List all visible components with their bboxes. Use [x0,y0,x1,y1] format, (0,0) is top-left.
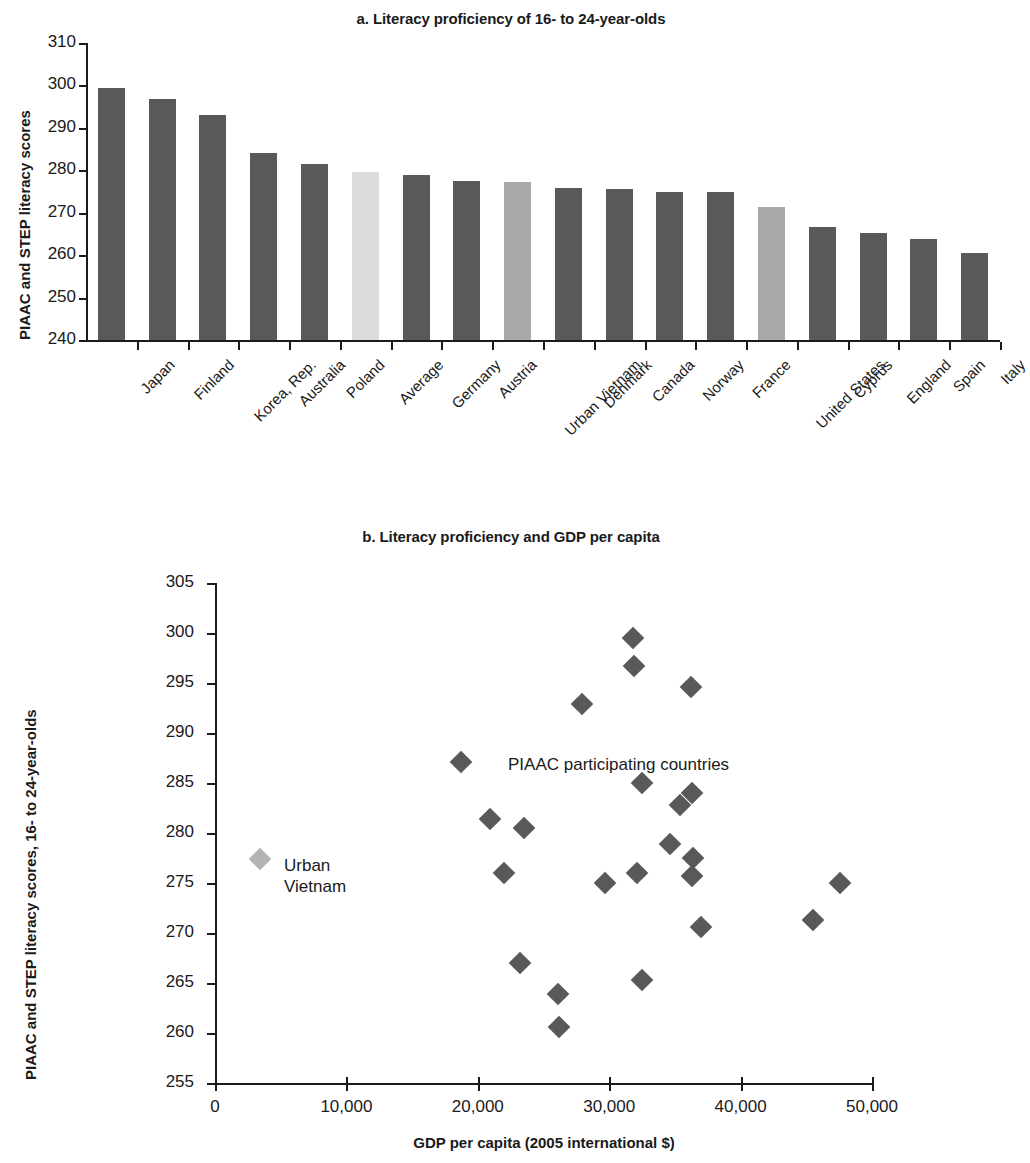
panel-b-x-tick-label: 30,000 [549,1097,669,1117]
panel-a-y-tick-mark [79,298,86,300]
panel-b-x-tick-mark [741,1077,743,1091]
panel-b-x-tick-mark [609,1077,611,1091]
bar-italy[interactable] [961,253,988,340]
data-point-piaac-country[interactable] [829,872,852,895]
bar-finland[interactable] [149,99,176,340]
data-point-piaac-country[interactable] [623,655,646,678]
data-point-piaac-country[interactable] [658,833,681,856]
panel-a-x-tick-mark [188,342,190,350]
panel-a-y-tick-label: 240 [30,329,76,349]
bar-korea-rep-[interactable] [199,115,226,340]
panel-b-x-tick-mark [215,1077,217,1091]
data-point-piaac-country[interactable] [690,916,713,939]
panel-b-x-tick-mark [872,1077,874,1091]
panel-b-y-tick-label: 255 [132,1072,194,1092]
panel-a-y-tick-label: 280 [30,159,76,179]
data-point-piaac-country[interactable] [478,808,501,831]
panel-b-y-tick-label: 285 [132,772,194,792]
bar-france[interactable] [707,192,734,340]
data-point-piaac-country[interactable] [802,909,825,932]
data-point-piaac-country[interactable] [570,693,593,716]
bar-japan[interactable] [98,88,125,340]
bar-spain[interactable] [910,239,937,340]
panel-a-x-tick-mark [238,342,240,350]
panel-a-category-label: Spain [949,356,988,395]
panel-a-x-tick-mark [340,342,342,350]
panel-b-x-tick-label: 0 [155,1097,275,1117]
bar-united-states[interactable] [758,207,785,340]
panel-a-y-tick-label: 290 [30,117,76,137]
panel-a-x-tick-mark [594,342,596,350]
panel-b-y-tick-mark [207,1033,215,1035]
bar-denmark[interactable] [555,188,582,340]
panel-a-category-label: Finland [191,356,238,403]
bar-norway[interactable] [656,192,683,340]
data-point-piaac-country[interactable] [679,676,702,699]
data-point-piaac-country[interactable] [625,862,648,885]
panel-b-y-tick-label: 260 [132,1022,194,1042]
panel-b-y-axis-title: PIAAC and STEP literacy scores, 16- to 2… [22,709,39,1080]
panel-b-y-tick-mark [207,783,215,785]
panel-a-category-label: Canada [649,356,698,405]
panel-a-y-tick-mark [79,128,86,130]
bar-germany[interactable] [403,175,430,340]
data-point-piaac-country[interactable] [631,969,654,992]
panel-b-x-tick-label: 20,000 [418,1097,538,1117]
panel-a-bar-chart: a. Literacy proficiency of 16- to 24-yea… [0,0,1022,500]
panel-b-y-tick-label: 265 [132,972,194,992]
panel-b-y-axis-line [215,583,217,1085]
bar-poland[interactable] [301,164,328,340]
data-point-piaac-country[interactable] [548,1016,571,1039]
panel-b-x-tick-mark [346,1077,348,1091]
bar-austria[interactable] [453,181,480,340]
panel-a-y-tick-mark [79,170,86,172]
panel-a-x-tick-mark [543,342,545,350]
panel-a-x-tick-mark [645,342,647,350]
data-point-piaac-country[interactable] [509,952,532,975]
panel-a-y-tick-mark [79,85,86,87]
panel-a-category-label: Japan [137,356,178,397]
data-point-piaac-country[interactable] [594,872,617,895]
bar-average[interactable] [352,172,379,340]
annotation-urban-vietnam-line1: Urban [284,855,346,876]
panel-b-y-tick-label: 270 [132,922,194,942]
panel-b-x-axis-title: GDP per capita (2005 international $) [33,1134,1030,1151]
data-point-piaac-country[interactable] [622,627,645,650]
bar-cyprus[interactable] [809,227,836,340]
bar-urban-vietnam[interactable] [504,182,531,340]
panel-a-x-tick-mark [797,342,799,350]
data-point-piaac-country[interactable] [547,983,570,1006]
panel-a-category-label: Average [396,356,447,407]
panel-b-y-tick-mark [207,933,215,935]
panel-a-category-label: England [903,356,954,407]
panel-b-y-tick-label: 280 [132,822,194,842]
panel-b-title: b. Literacy proficiency and GDP per capi… [0,528,1022,545]
panel-b-scatter-chart: b. Literacy proficiency and GDP per capi… [0,500,1022,1163]
panel-a-category-label: Poland [342,356,387,401]
annotation-piaac-participating-countries: PIAAC participating countries [508,755,729,775]
data-point-piaac-country[interactable] [449,751,472,774]
panel-a-y-tick-label: 300 [30,74,76,94]
annotation-urban-vietnam-line2: Vietnam [284,876,346,897]
data-point-piaac-country[interactable] [493,862,516,885]
bar-australia[interactable] [250,153,277,340]
data-point-piaac-country[interactable] [631,772,654,795]
panel-a-category-label: Germany [448,356,504,412]
panel-b-y-tick-label: 300 [132,622,194,642]
bar-canada[interactable] [606,189,633,340]
panel-a-category-label: Austria [495,356,540,401]
data-point-urban-vietnam[interactable] [248,848,271,871]
panel-b-x-tick-label: 10,000 [286,1097,406,1117]
panel-a-x-tick-mark [137,342,139,350]
data-point-piaac-country[interactable] [681,865,704,888]
panel-a-x-tick-mark [746,342,748,350]
panel-b-y-tick-label: 295 [132,672,194,692]
panel-a-y-tick-mark [79,43,86,45]
panel-a-title: a. Literacy proficiency of 16- to 24-yea… [0,10,1022,27]
bar-england[interactable] [860,233,887,340]
panel-b-y-tick-mark [207,733,215,735]
panel-a-x-tick-mark [391,342,393,350]
panel-a-y-tick-label: 250 [30,287,76,307]
data-point-piaac-country[interactable] [512,817,535,840]
panel-b-y-tick-label: 305 [132,572,194,592]
